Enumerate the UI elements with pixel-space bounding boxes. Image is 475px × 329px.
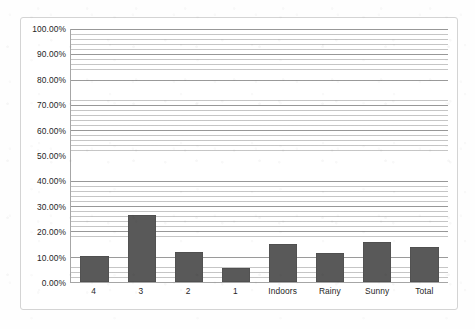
- y-axis-tick-label: 0.00%: [42, 278, 66, 288]
- y-axis-tick-label: 10.00%: [37, 253, 66, 263]
- x-axis-tick-label: Rainy: [306, 286, 353, 296]
- y-axis-tick-label: 60.00%: [37, 126, 66, 136]
- y-axis-tick-label: 70.00%: [37, 100, 66, 110]
- x-axis-tick-label: 2: [165, 286, 212, 296]
- bar: [316, 253, 344, 282]
- bar-slot: [401, 29, 448, 282]
- y-axis-tick-label: 90.00%: [37, 49, 66, 59]
- x-axis-tick-label: 1: [212, 286, 259, 296]
- bar-slot: [212, 29, 259, 282]
- x-axis: 4321IndoorsRainySunnyTotal: [70, 286, 448, 296]
- bar-slot: [307, 29, 354, 282]
- bar: [269, 244, 297, 282]
- bar: [363, 242, 391, 282]
- y-axis-tick-label: 40.00%: [37, 176, 66, 186]
- chart-screenshot: 100.00%90.00%80.00%70.00%60.00%50.00%40.…: [0, 0, 475, 329]
- bar: [128, 215, 156, 282]
- y-axis-tick-label: 80.00%: [37, 75, 66, 85]
- bar: [410, 247, 438, 282]
- plot-area: [70, 29, 448, 283]
- bar: [80, 256, 108, 282]
- y-axis-tick-label: 100.00%: [32, 24, 66, 34]
- bar: [175, 252, 203, 282]
- chart-frame: 100.00%90.00%80.00%70.00%60.00%50.00%40.…: [20, 17, 458, 310]
- x-axis-tick-label: Total: [401, 286, 448, 296]
- bar-slot: [71, 29, 118, 282]
- x-axis-tick-label: 4: [70, 286, 117, 296]
- x-axis-tick-label: Indoors: [259, 286, 306, 296]
- bar-slot: [354, 29, 401, 282]
- y-axis-tick-label: 20.00%: [37, 227, 66, 237]
- y-axis: 100.00%90.00%80.00%70.00%60.00%50.00%40.…: [21, 29, 66, 283]
- bar-slot: [165, 29, 212, 282]
- bar-slot: [260, 29, 307, 282]
- bar-series: [71, 29, 448, 282]
- y-axis-tick-label: 50.00%: [37, 151, 66, 161]
- bar: [222, 268, 250, 282]
- x-axis-tick-label: Sunny: [354, 286, 401, 296]
- x-axis-tick-label: 3: [117, 286, 164, 296]
- y-axis-tick-label: 30.00%: [37, 202, 66, 212]
- bar-slot: [118, 29, 165, 282]
